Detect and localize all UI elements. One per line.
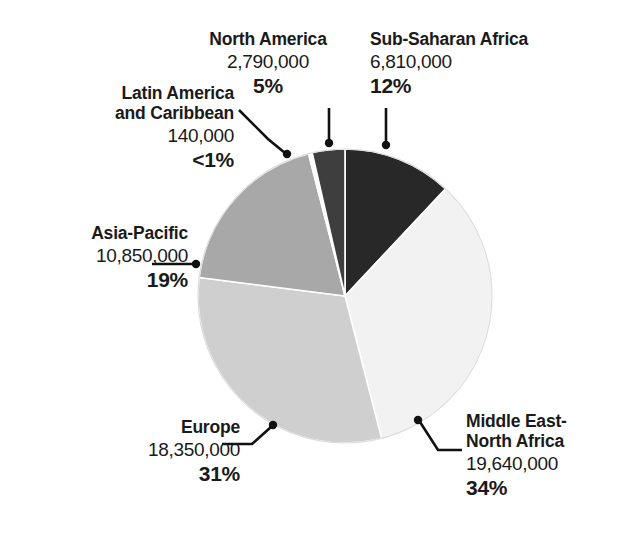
slice-label-name-line2: and Caribbean [52,104,234,124]
slice-label-value: 10,850,000 [18,245,188,267]
leader-line-latin-america [239,110,285,153]
slice-label-percent: 34% [466,476,622,500]
slice-label-percent: <1% [52,148,234,172]
slice-label-name: North America [188,30,348,50]
slice-label-latin-america-caribbean: Latin America and Caribbean 140,000 <1% [52,84,234,171]
pie-slices-group [198,149,492,443]
leader-line-middle-east [420,422,462,450]
slice-label-name: Sub-Saharan Africa [370,30,576,50]
slice-label-value: 18,350,000 [62,439,240,461]
slice-label-name-line1: Middle East- [466,412,622,432]
leader-dot-europe [269,421,277,429]
slice-label-sub-saharan-africa: Sub-Saharan Africa 6,810,000 12% [370,30,576,98]
slice-label-name: Asia-Pacific [18,224,188,244]
leader-dot-asia-pacific [192,260,200,268]
slice-label-value: 6,810,000 [370,51,576,73]
slice-label-percent: 31% [62,462,240,486]
slice-label-middle-east-north-africa: Middle East- North Africa 19,640,000 34% [466,412,622,499]
leader-dot-sub-saharan [382,141,390,149]
leader-dot-latin-america [283,150,291,158]
slice-label-name-line1: Latin America [52,84,234,104]
slice-label-value: 140,000 [52,125,234,147]
pie-chart-figure: North America 2,790,000 5% Sub-Saharan A… [0,0,622,533]
slice-label-value: 2,790,000 [188,51,348,73]
slice-label-percent: 19% [18,268,188,292]
leader-dot-north-america [325,139,333,147]
slice-label-percent: 12% [370,74,576,98]
slice-label-asia-pacific: Asia-Pacific 10,850,000 19% [18,224,188,292]
slice-label-europe: Europe 18,350,000 31% [62,418,240,486]
leader-dot-middle-east [414,416,422,424]
slice-label-value: 19,640,000 [466,453,622,475]
slice-label-name: Europe [62,418,240,438]
slice-label-name-line2: North Africa [466,432,622,452]
